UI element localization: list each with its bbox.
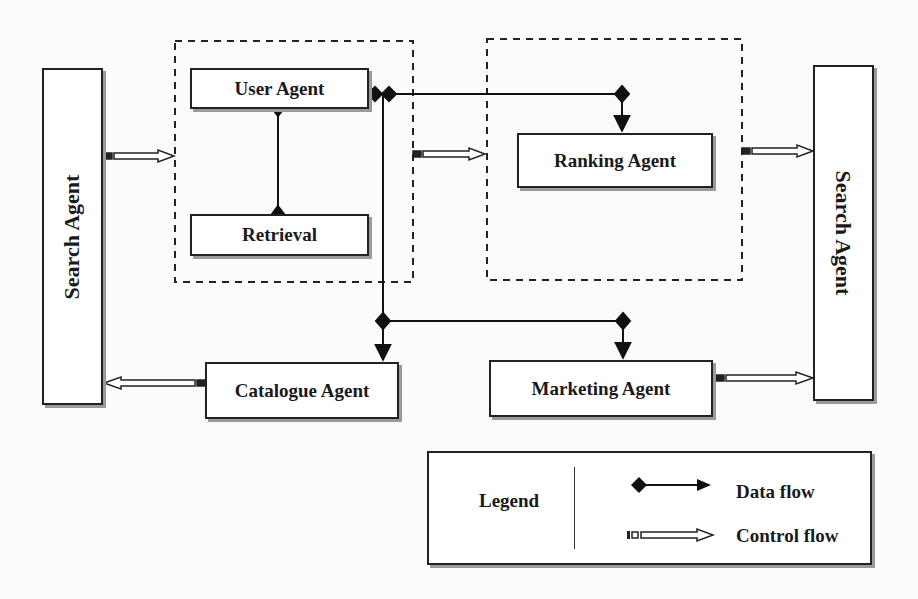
legend-symbols <box>429 453 874 567</box>
marketing-agent-node[interactable]: Marketing Agent <box>489 360 713 417</box>
search-agent-right[interactable]: Search Agent <box>813 65 874 401</box>
legend-data-flow-label: Data flow <box>736 481 815 503</box>
data-flow-icon <box>631 477 711 493</box>
search-agent-left-label: Search Agent <box>60 174 86 299</box>
user-agent-node[interactable]: User Agent <box>190 68 369 109</box>
search-agent-right-label: Search Agent <box>831 171 857 296</box>
user-agent-label: User Agent <box>235 78 325 100</box>
retrieval-label: Retrieval <box>242 224 317 246</box>
marketing-agent-label: Marketing Agent <box>532 378 671 400</box>
catalogue-agent-node[interactable]: Catalogue Agent <box>205 362 399 419</box>
control-flow-icon <box>627 529 713 541</box>
retrieval-node[interactable]: Retrieval <box>190 214 369 256</box>
legend-control-flow-label: Control flow <box>736 525 839 547</box>
catalogue-agent-label: Catalogue Agent <box>235 380 370 402</box>
ranking-agent-node[interactable]: Ranking Agent <box>517 133 713 188</box>
search-agent-left[interactable]: Search Agent <box>42 68 103 405</box>
legend: Legend Data flow Control flow <box>427 451 872 565</box>
ranking-agent-label: Ranking Agent <box>554 150 676 172</box>
